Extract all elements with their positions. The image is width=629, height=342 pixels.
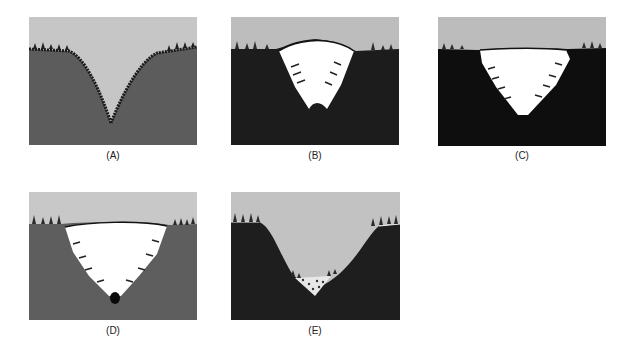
panel-b (231, 17, 399, 145)
panel-d (29, 192, 197, 320)
panel-label-d: (D) (83, 325, 143, 336)
glacier-fills-valley-illustration (231, 17, 399, 145)
panel-a (29, 17, 197, 145)
panel-e (231, 192, 400, 320)
meltwater-stream-icon (110, 292, 120, 304)
panel-label-c: (C) (492, 150, 552, 161)
glacier-widens-valley-illustration (29, 192, 197, 320)
panel-label-a: (A) (83, 150, 143, 161)
panel-label-e: (E) (285, 325, 345, 336)
u-shaped-valley-illustration (231, 192, 400, 320)
panel-c (438, 17, 606, 146)
v-shaped-valley-illustration (29, 17, 197, 145)
glacier-erodes-walls-illustration (438, 17, 606, 146)
panel-label-b: (B) (285, 150, 345, 161)
